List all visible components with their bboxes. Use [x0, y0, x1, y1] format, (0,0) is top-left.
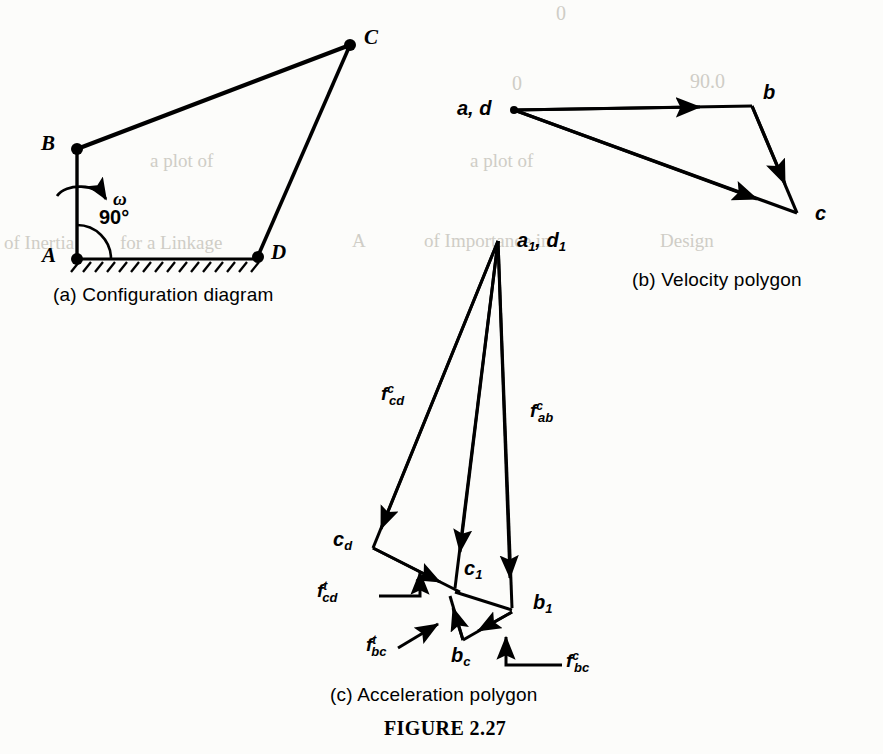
- configuration-diagram-graphics: [57, 39, 356, 272]
- right-angle-label: 90°: [99, 207, 129, 227]
- accel-b1-sub: 1: [545, 601, 552, 616]
- ground-hatching: [71, 262, 259, 272]
- force-label-f-cd-c: fccd: [381, 383, 404, 407]
- velocity-polygon-graphics: [510, 106, 797, 213]
- subfigure-c-caption: (c) Acceleration polygon: [330, 685, 538, 704]
- accel-node-a1d1-label: a1, d1: [517, 230, 566, 253]
- config-point-d-label: D: [271, 242, 286, 263]
- accel-node-b1-label: b1: [533, 592, 552, 615]
- f-bc-t-sub: bc: [371, 645, 386, 658]
- figure-caption: FIGURE 2.27: [384, 718, 506, 738]
- subfigure-b-caption: (b) Velocity polygon: [632, 270, 802, 289]
- accel-c1-base: c: [464, 557, 475, 579]
- f-cd-t-sub: cd: [322, 591, 337, 604]
- accel-c1-sub: 1: [475, 567, 482, 582]
- velocity-node-b-label: b: [763, 82, 775, 102]
- link-bc: [77, 45, 350, 149]
- figure-svg: [0, 0, 883, 754]
- velocity-node-c-label: c: [815, 203, 826, 223]
- velocity-node-ad-label: a, d: [457, 98, 491, 118]
- accel-node-bc-label: bc: [451, 645, 470, 668]
- force-label-f-cd-t: ftcd: [317, 580, 338, 604]
- config-point-a-label: A: [42, 245, 56, 266]
- config-point-b-label: B: [41, 133, 55, 154]
- f-bc-c-sub: bc: [574, 661, 589, 674]
- accel-cd-sub: d: [344, 538, 352, 553]
- leader-f-cd-t: [379, 572, 420, 596]
- force-label-f-ab-c: fcab: [530, 400, 553, 424]
- accel-node-c1-label: c1: [464, 558, 482, 581]
- figure-page: 0 90.0 0 of Inertia for a Linkage A of I…: [0, 0, 883, 754]
- accel-bc-sub: c: [463, 654, 470, 669]
- accel-a1-base: a: [517, 229, 528, 251]
- accel-b1-base: b: [533, 591, 545, 613]
- accel-bc-base: b: [451, 644, 463, 666]
- joint-a: [71, 253, 83, 265]
- f-cd-c-sub: cd: [389, 394, 404, 407]
- velocity-pole-node: [510, 106, 518, 114]
- config-point-c-label: C: [364, 27, 378, 48]
- leader-f-bc-c: [506, 637, 562, 665]
- joint-b: [71, 143, 83, 155]
- joint-c: [344, 39, 356, 51]
- accel-node-cd-label: cd: [333, 529, 352, 552]
- vector-c1-to-b1: [455, 592, 512, 610]
- force-label-f-bc-c: fcbc: [566, 650, 589, 674]
- force-label-f-bc-t: ftbc: [366, 634, 387, 658]
- accel-comma: ,: [535, 229, 546, 251]
- leader-f-bc-t: [398, 624, 438, 648]
- right-angle-arc: [77, 225, 111, 259]
- subfigure-a-caption: (a) Configuration diagram: [53, 285, 273, 304]
- accel-cd-base: c: [333, 528, 344, 550]
- omega-arrow: [57, 187, 106, 199]
- accel-d1-base: d: [546, 229, 558, 251]
- accel-d1-sub: 1: [559, 239, 566, 254]
- joint-d: [252, 251, 264, 263]
- f-ab-c-sub: ab: [538, 411, 553, 424]
